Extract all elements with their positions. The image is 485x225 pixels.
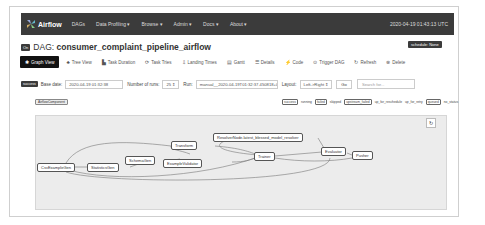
layout-label: Layout: bbox=[282, 82, 297, 87]
tab-label: Delete bbox=[392, 60, 405, 65]
tab-tree-view[interactable]: ♣Tree View bbox=[66, 59, 91, 65]
tab-trigger-dag[interactable]: ⊙Trigger DAG bbox=[313, 59, 344, 65]
legend-up-for-retry[interactable]: up_for_retry bbox=[405, 100, 423, 104]
tab-label: Task Duration bbox=[108, 60, 136, 65]
base-date-label: Base date: bbox=[41, 82, 63, 87]
refresh-icon: ↻ bbox=[354, 59, 358, 65]
tab-graph-view[interactable]: ✱Graph View bbox=[20, 56, 59, 68]
node-transform[interactable]: Transform bbox=[171, 141, 197, 150]
run-controls: success Base date: 2020-04-19 01:32:38 N… bbox=[21, 79, 415, 89]
nav-docs[interactable]: Docs ▾ bbox=[203, 21, 219, 27]
tab-label: Details bbox=[261, 60, 275, 65]
layout-select[interactable]: Left->Right ⇕ bbox=[300, 80, 333, 89]
pinwheel-icon bbox=[26, 19, 36, 29]
airflow-logo[interactable]: Airflow bbox=[26, 19, 62, 29]
server-time: 2020-04-19 01:43:13 UTC bbox=[390, 21, 448, 27]
arrow-down-icon: ⇩ bbox=[182, 59, 186, 65]
tree-icon: ♣ bbox=[66, 59, 69, 65]
top-navbar: Airflow DAGs Data Profiling ▾ Browse ▾ A… bbox=[21, 13, 454, 35]
tab-details[interactable]: ☰Details bbox=[255, 59, 275, 65]
schedule-badge: schedule: None bbox=[408, 41, 442, 48]
node-resolvernode[interactable]: ResolverNode.latest_blessed_model_resolv… bbox=[213, 133, 303, 142]
tab-task-duration[interactable]: ▙Task Duration bbox=[102, 59, 136, 65]
tab-label: Trigger DAG bbox=[319, 60, 344, 65]
node-trainer[interactable]: Trainer bbox=[254, 152, 275, 161]
gantt-icon: ▤ bbox=[227, 59, 232, 65]
node-statisticsgen[interactable]: StatisticsGen bbox=[87, 163, 119, 172]
nav-browse[interactable]: Browse ▾ bbox=[141, 21, 162, 27]
retry-icon: ⟳ bbox=[145, 59, 149, 65]
page-title: DAG: consumer_complaint_pipeline_airflow bbox=[33, 42, 211, 52]
legend-running[interactable]: running bbox=[301, 100, 312, 104]
tab-refresh[interactable]: ↻Refresh bbox=[354, 59, 376, 65]
flash-icon: ⚡ bbox=[285, 59, 291, 65]
run-select[interactable]: manual__2020-04-19T01:32:37.450818+00:00… bbox=[196, 80, 278, 89]
tab-gantt[interactable]: ▤Gantt bbox=[227, 59, 245, 65]
tab-label: Task Tries bbox=[151, 60, 171, 65]
node-pusher[interactable]: Pusher bbox=[352, 151, 373, 160]
graph-refresh-button[interactable]: ↻ bbox=[426, 118, 436, 128]
node-examplevalidator[interactable]: ExampleValidator bbox=[163, 159, 202, 168]
num-runs-select[interactable]: 25 ⇕ bbox=[162, 80, 179, 89]
state-legend: success running failed skipped upstream_… bbox=[282, 99, 461, 105]
bar-chart-icon: ▙ bbox=[102, 59, 106, 65]
search-input[interactable]: Search for... bbox=[357, 79, 415, 89]
asterisk-icon: ✱ bbox=[25, 59, 29, 65]
tab-label: Landing Times bbox=[188, 60, 217, 65]
brand-label: Airflow bbox=[38, 21, 62, 28]
tab-task-tries[interactable]: ⟳Task Tries bbox=[145, 59, 171, 65]
nav-dags[interactable]: DAGs bbox=[72, 21, 85, 27]
tab-label: Gantt bbox=[234, 60, 245, 65]
dag-on-toggle[interactable]: On bbox=[21, 44, 30, 51]
legend-upstream-failed[interactable]: upstream_failed bbox=[344, 99, 371, 105]
go-button[interactable]: Go bbox=[336, 80, 352, 89]
tab-delete[interactable]: ⊗Delete bbox=[386, 59, 405, 65]
list-icon: ☰ bbox=[255, 59, 259, 65]
dag-id: consumer_complaint_pipeline_airflow bbox=[57, 42, 211, 52]
refresh-icon: ↻ bbox=[429, 120, 433, 126]
play-circle-icon: ⊙ bbox=[313, 59, 317, 65]
node-schemagen[interactable]: SchemaGen bbox=[125, 156, 155, 165]
base-date-input[interactable]: 2020-04-19 01:32:38 bbox=[65, 80, 123, 89]
tab-landing-times[interactable]: ⇩Landing Times bbox=[182, 59, 217, 65]
tab-label: Code bbox=[293, 60, 304, 65]
nav-admin[interactable]: Admin ▾ bbox=[174, 21, 193, 27]
dag-header: On DAG: consumer_complaint_pipeline_airf… bbox=[21, 42, 211, 52]
tab-code[interactable]: ⚡Code bbox=[285, 59, 304, 65]
legend-failed[interactable]: failed bbox=[315, 99, 327, 105]
operator-badge: AirflowComponent bbox=[35, 99, 68, 105]
legend-up-for-reschedule[interactable]: up_for_reschedule bbox=[375, 100, 402, 104]
tab-label: Graph View bbox=[31, 60, 54, 65]
nav-data-profiling[interactable]: Data Profiling ▾ bbox=[96, 21, 130, 27]
node-csvexamplegen[interactable]: CsvExampleGen bbox=[37, 163, 75, 172]
tab-label: Tree View bbox=[72, 60, 92, 65]
legend-no-status[interactable]: no_status bbox=[444, 100, 458, 104]
dag-prefix: DAG: bbox=[33, 42, 56, 52]
delete-circle-icon: ⊗ bbox=[386, 59, 390, 65]
state-badge: success bbox=[21, 81, 38, 87]
node-evaluator[interactable]: Evaluator bbox=[321, 147, 346, 156]
legend-queued[interactable]: queued bbox=[426, 99, 441, 105]
num-runs-label: Number of runs: bbox=[127, 82, 159, 87]
legend-skipped[interactable]: skipped bbox=[330, 100, 341, 104]
view-tabs: ✱Graph View ♣Tree View ▙Task Duration ⟳T… bbox=[20, 56, 415, 68]
legend-success[interactable]: success bbox=[282, 99, 298, 105]
run-label: Run: bbox=[183, 82, 193, 87]
nav-about[interactable]: About ▾ bbox=[230, 21, 247, 27]
tab-label: Refresh bbox=[360, 60, 376, 65]
